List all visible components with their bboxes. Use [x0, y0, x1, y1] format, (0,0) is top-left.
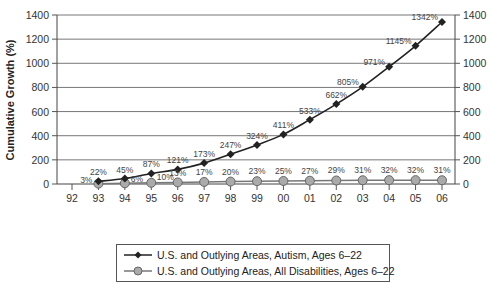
y2-tick-label: 800: [463, 81, 481, 93]
y-axis-right: 0200400600800100012001400: [455, 9, 487, 190]
data-label-all-disabilities: 32%: [407, 165, 424, 175]
point-all-disabilities: [438, 176, 447, 185]
x-tick-label: 98: [225, 192, 237, 204]
legend-item-autism: U.S. and Outlying Areas, Autism, Ages 6–…: [123, 247, 362, 263]
x-tick-label: 93: [93, 192, 105, 204]
y-axis-title: Cumulative Growth (%): [4, 39, 16, 160]
data-label-autism: 173%: [193, 149, 215, 159]
point-all-disabilities: [147, 178, 156, 187]
point-autism: [147, 169, 155, 177]
data-label-autism: 1342%: [412, 12, 439, 22]
point-all-disabilities: [332, 176, 341, 185]
data-label-autism: 411%: [273, 120, 295, 130]
point-autism: [279, 130, 287, 138]
data-label-autism: 1145%: [386, 36, 412, 46]
point-all-disabilities: [305, 176, 314, 185]
y2-tick-label: 0: [463, 178, 469, 190]
point-autism: [227, 150, 235, 158]
data-label-autism: 121%: [167, 155, 189, 165]
y2-tick-label: 600: [463, 106, 481, 118]
data-label-all-disabilities: 31%: [354, 165, 371, 175]
data-label-autism: 805%: [337, 77, 359, 87]
data-label-all-disabilities: 3%: [80, 175, 93, 185]
x-tick-label: 99: [251, 192, 263, 204]
x-tick-label: 96: [172, 192, 184, 204]
data-label-all-disabilities: 27%: [301, 166, 318, 176]
data-label-autism: 45%: [116, 165, 133, 175]
y2-tick-label: 200: [463, 154, 481, 166]
data-label-autism: 533%: [299, 106, 321, 116]
data-label-autism: 662%: [325, 90, 347, 100]
data-label-all-disabilities: 23%: [248, 166, 265, 176]
y-tick-label: 0: [43, 178, 49, 190]
data-label-all-disabilities: 13%: [169, 168, 186, 178]
x-tick-label: 00: [278, 192, 290, 204]
data-label-all-disabilities: 31%: [433, 165, 450, 175]
y-tick-label: 1000: [26, 57, 50, 69]
data-label-autism: 22%: [90, 167, 107, 177]
point-all-disabilities: [358, 176, 367, 185]
data-label-all-disabilities: 32%: [381, 165, 398, 175]
point-all-disabilities: [411, 176, 420, 185]
legend-label-all-disabilities: U.S. and Outlying Areas, All Disabilitie…: [157, 265, 395, 277]
y2-tick-label: 1400: [463, 9, 487, 21]
diamond-marker-icon: [123, 250, 153, 260]
legend-item-all-disabilities: U.S. and Outlying Areas, All Disabilitie…: [123, 263, 395, 279]
point-autism: [253, 141, 261, 149]
point-all-disabilities: [253, 177, 262, 186]
x-tick-label: 97: [198, 192, 210, 204]
data-label-all-disabilities: 17%: [196, 167, 213, 177]
y-tick-label: 1200: [26, 33, 50, 45]
y-tick-label: 200: [31, 154, 49, 166]
y2-tick-label: 400: [463, 130, 481, 142]
point-all-disabilities: [385, 176, 394, 185]
point-autism: [332, 100, 340, 108]
x-tick-label: 03: [357, 192, 369, 204]
data-label-autism: 971%: [363, 57, 385, 67]
data-label-all-disabilities: 25%: [275, 166, 292, 176]
y2-tick-label: 1200: [463, 33, 487, 45]
data-labels: 22%45%87%121%173%247%324%411%533%662%805…: [80, 12, 451, 185]
x-tick-label: 04: [383, 192, 395, 204]
x-tick-label: 06: [436, 192, 448, 204]
y-tick-label: 600: [31, 106, 49, 118]
circle-marker-icon: [123, 266, 153, 276]
y-axis-left: 0200400600800100012001400: [26, 9, 57, 190]
data-label-all-disabilities: 20%: [222, 167, 239, 177]
series-line-autism: [98, 22, 442, 181]
x-tick-label: 94: [119, 192, 131, 204]
data-label-autism: 247%: [220, 140, 242, 150]
point-all-disabilities: [279, 176, 288, 185]
x-tick-label: 92: [66, 192, 78, 204]
legend-label-autism: U.S. and Outlying Areas, Autism, Ages 6–…: [157, 249, 362, 261]
x-tick-label: 01: [304, 192, 316, 204]
legend: U.S. and Outlying Areas, Autism, Ages 6–…: [116, 244, 390, 282]
y-tick-label: 800: [31, 81, 49, 93]
point-all-disabilities: [226, 177, 235, 186]
y-tick-label: 400: [31, 130, 49, 142]
data-label-autism: 324%: [246, 131, 268, 141]
point-all-disabilities: [200, 177, 209, 186]
point-all-disabilities: [173, 178, 182, 187]
data-label-autism: 87%: [143, 159, 160, 169]
y2-tick-label: 1000: [463, 57, 487, 69]
data-label-all-disabilities: 6%: [131, 174, 144, 184]
x-tick-label: 02: [330, 192, 342, 204]
y-tick-label: 1400: [26, 9, 50, 21]
point-autism: [306, 116, 314, 124]
x-tick-label: 95: [145, 192, 157, 204]
data-label-all-disabilities: 29%: [328, 165, 345, 175]
x-tick-label: 05: [410, 192, 422, 204]
